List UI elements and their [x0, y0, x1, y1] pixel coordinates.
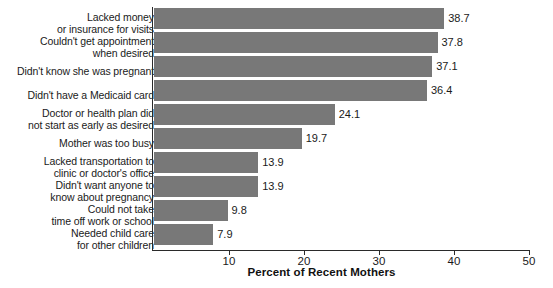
category-label: Could not take time off work or school: [51, 203, 154, 228]
x-axis-title-text: Percent of Recent Mothers: [157, 266, 395, 278]
bar-value-label: 38.7: [448, 8, 469, 29]
bar-value-label: 37.8: [442, 32, 463, 53]
bar-value-label: 13.9: [262, 176, 283, 197]
bar[interactable]: [154, 8, 444, 29]
x-axis-line: [153, 250, 530, 251]
bar[interactable]: [154, 104, 335, 125]
category-label: Didn't want anyone to know about pregnan…: [50, 179, 154, 204]
bar[interactable]: [154, 224, 213, 245]
bar-chart: Lacked money or insurance for visits Cou…: [0, 0, 553, 288]
bar-value-label: 24.1: [339, 104, 360, 125]
bar[interactable]: [154, 128, 302, 149]
x-axis-title: Percent of Recent Mothers: [0, 266, 553, 278]
category-label: Mother was too busy: [59, 137, 154, 149]
category-label: Needed child care for other children: [71, 227, 154, 252]
y-axis-line: [152, 7, 153, 251]
bar-value-label: 36.4: [431, 80, 452, 101]
bar[interactable]: [154, 152, 258, 173]
chart-page: Lacked money or insurance for visits Cou…: [0, 0, 553, 288]
bar[interactable]: [154, 176, 258, 197]
category-label: Couldn't get appointment when desired: [40, 35, 154, 60]
category-label: Didn't have a Medicaid card: [27, 89, 154, 101]
bar-value-label: 13.9: [262, 152, 283, 173]
category-label: Didn't know she was pregnant: [17, 65, 154, 77]
bar-value-label: 19.7: [306, 128, 327, 149]
bar[interactable]: [154, 200, 228, 221]
bar[interactable]: [154, 32, 438, 53]
bar[interactable]: [154, 80, 427, 101]
category-label: Lacked money or insurance for visits: [57, 11, 154, 36]
bar[interactable]: [154, 56, 432, 77]
bar-value-label: 37.1: [436, 56, 457, 77]
category-label: Doctor or health plan did not start as e…: [28, 107, 154, 132]
bar-value-label: 7.9: [217, 224, 232, 245]
category-label: Lacked transportation to clinic or docto…: [44, 155, 154, 180]
bar-value-label: 9.8: [232, 200, 247, 221]
